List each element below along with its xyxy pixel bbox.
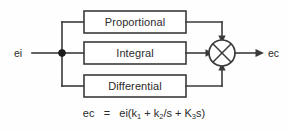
arrowhead-output [256, 49, 265, 57]
diagram-canvas: Proportional Integral Differential ei ec… [0, 0, 288, 131]
equation-rhs-close: s) [196, 107, 205, 119]
block-label-integral: Integral [84, 48, 186, 59]
block-label-differential: Differential [84, 81, 186, 92]
equation-lhs: ec [83, 107, 95, 119]
equation-operator: = [104, 107, 110, 119]
equation-rhs-open: ei(k [119, 107, 137, 119]
equation-text: ec = ei(k1 + k2/s + K3s) [0, 108, 288, 119]
equation-plus-first: + k [141, 107, 159, 119]
equation-subscript-1: 1 [137, 112, 141, 121]
block-label-proportional: Proportional [84, 17, 186, 28]
equation-subscript-3: 3 [192, 112, 196, 121]
equation-subscript-2: 2 [159, 112, 163, 121]
input-label-ei: ei [14, 48, 22, 59]
equation-mid: /s + K [163, 107, 191, 119]
output-label-ec: ec [268, 48, 279, 59]
branch-node-dot [59, 50, 66, 57]
